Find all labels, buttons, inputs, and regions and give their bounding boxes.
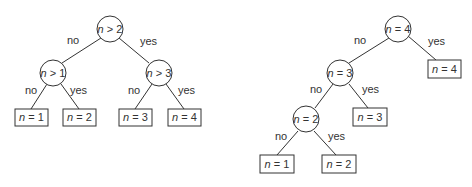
edge-label: no (310, 83, 322, 95)
svg-text:n > 3: n > 3 (147, 67, 172, 79)
edge-label: yes (428, 35, 446, 47)
leaf-node: n = 4 (168, 109, 201, 126)
edge-label: yes (328, 130, 346, 142)
edge-label: yes (140, 35, 158, 47)
leaf-node: n = 3 (353, 108, 387, 126)
svg-text:n = 3: n = 3 (358, 111, 383, 123)
left-tree: no yes no yes no yes n > 2 n > 1 n > 3 n… (15, 16, 201, 126)
decision-node: n > 1 (40, 60, 66, 86)
decision-trees-figure: no yes no yes no yes n > 2 n > 1 n > 3 n… (0, 0, 472, 187)
leaf-node: n = 1 (15, 109, 48, 126)
decision-node: n > 3 (146, 60, 172, 86)
edge-label: yes (178, 84, 196, 96)
svg-text:n > 1: n > 1 (41, 67, 66, 79)
svg-text:n = 2: n = 2 (327, 158, 352, 170)
decision-node: n = 4 (385, 16, 411, 42)
edge-label: yes (362, 83, 380, 95)
leaf-node: n = 3 (119, 109, 152, 126)
svg-text:n = 2: n = 2 (67, 111, 92, 123)
svg-text:n = 4: n = 4 (432, 63, 457, 75)
edge-label: no (275, 130, 287, 142)
edge-label: no (128, 84, 140, 96)
edge-label: no (25, 84, 37, 96)
svg-text:n = 3: n = 3 (123, 111, 148, 123)
svg-text:n = 2: n = 2 (294, 113, 319, 125)
leaf-node: n = 2 (63, 109, 96, 126)
leaf-node: n = 4 (428, 60, 461, 78)
edge-label: no (67, 34, 79, 46)
edge-label: yes (70, 84, 88, 96)
leaf-node: n = 2 (322, 155, 356, 173)
svg-text:n > 2: n > 2 (98, 23, 123, 35)
leaf-node: n = 1 (260, 155, 294, 173)
svg-text:n = 1: n = 1 (19, 111, 44, 123)
edge-label: no (354, 34, 366, 46)
svg-text:n = 3: n = 3 (328, 67, 353, 79)
svg-text:n = 4: n = 4 (386, 23, 411, 35)
right-tree: no yes no yes no yes n = 4 n = 3 n = 2 n… (260, 16, 461, 173)
svg-text:n = 1: n = 1 (265, 158, 290, 170)
svg-text:n = 4: n = 4 (172, 111, 197, 123)
decision-node: n = 3 (327, 60, 353, 86)
decision-node: n > 2 (97, 16, 123, 42)
decision-node: n = 2 (293, 106, 319, 132)
